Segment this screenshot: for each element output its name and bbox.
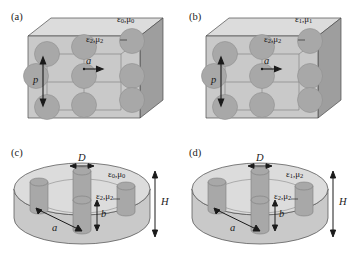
panel-d-host-material: ε1,μ2 bbox=[286, 170, 303, 180]
panel-c: (c) ε0,μ0 ε2,μ2 D a b H bbox=[0, 134, 178, 267]
panel-d-dim-b: b bbox=[279, 209, 284, 220]
panel-b-dim-p: p bbox=[211, 75, 216, 86]
panel-a-inclusion-material: ε2,μ2 bbox=[86, 35, 103, 45]
panel-a-tag: (a) bbox=[11, 12, 23, 23]
mu-subscript: 0 bbox=[131, 17, 134, 24]
eps-subscript: 1 bbox=[299, 17, 302, 24]
eps-subscript: 2 bbox=[100, 194, 103, 201]
panel-d-tag: (d) bbox=[189, 148, 201, 159]
eps-subscript: 2 bbox=[268, 37, 271, 44]
panel-b-inclusion-material: ε2,μ2 bbox=[264, 35, 281, 45]
eps-subscript: 2 bbox=[278, 194, 281, 201]
panel-c-inclusion-material: ε2,μ2 bbox=[96, 192, 113, 202]
panel-d: (d) ε1,μ2 ε2,μ2 D a b H bbox=[178, 134, 356, 267]
eps-subscript: 0 bbox=[121, 17, 124, 24]
panel-a: (a) ε0,μ0 ε2,μ2 p a bbox=[0, 0, 178, 133]
eps-subscript: 2 bbox=[90, 37, 93, 44]
panel-c-dim-H: H bbox=[161, 197, 169, 208]
panel-a-host-material: ε0,μ0 bbox=[117, 15, 134, 25]
panel-a-dim-p: p bbox=[33, 75, 38, 86]
eps-subscript: 0 bbox=[112, 172, 115, 179]
panel-b-host-material: ε1,μ1 bbox=[295, 15, 312, 25]
eps-subscript: 1 bbox=[290, 172, 293, 179]
panel-d-dim-D: D bbox=[256, 153, 264, 164]
mu-subscript: 2 bbox=[288, 194, 291, 201]
panel-c-tag: (c) bbox=[11, 148, 23, 159]
panel-c-dim-b: b bbox=[101, 209, 106, 220]
mu-subscript: 2 bbox=[110, 194, 113, 201]
panel-b-tag: (b) bbox=[189, 12, 201, 23]
panel-b: (b) ε1,μ1 ε2,μ2 p a bbox=[178, 0, 356, 133]
panel-d-inclusion-material: ε2,μ2 bbox=[274, 192, 291, 202]
mu-subscript: 2 bbox=[100, 37, 103, 44]
panel-d-dim-H: H bbox=[339, 197, 347, 208]
figure-container: (a) ε0,μ0 ε2,μ2 p a bbox=[0, 0, 356, 267]
panel-d-dim-a: a bbox=[230, 223, 235, 234]
panel-c-dim-a: a bbox=[52, 223, 57, 234]
mu-subscript: 0 bbox=[122, 172, 125, 179]
panel-c-dim-D: D bbox=[78, 153, 86, 164]
panel-c-host-material: ε0,μ0 bbox=[108, 170, 125, 180]
panel-b-dim-a: a bbox=[264, 56, 269, 67]
mu-subscript: 2 bbox=[300, 172, 303, 179]
mu-subscript: 2 bbox=[278, 37, 281, 44]
panel-a-dim-a: a bbox=[86, 56, 91, 67]
mu-subscript: 1 bbox=[309, 17, 312, 24]
